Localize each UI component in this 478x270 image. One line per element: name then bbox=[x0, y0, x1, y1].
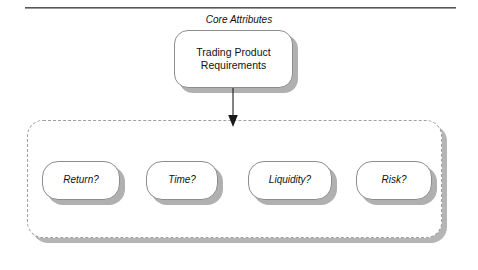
attribute-node-liquidity[interactable]: Liquidity? bbox=[248, 161, 332, 200]
attribute-node-label: Liquidity? bbox=[269, 174, 311, 187]
header-divider-rule bbox=[25, 7, 456, 9]
attribute-node-label: Return? bbox=[63, 174, 99, 187]
root-node-label: Trading Product Requirements bbox=[196, 46, 270, 72]
attribute-node-time[interactable]: Time? bbox=[146, 161, 218, 200]
attribute-node-return[interactable]: Return? bbox=[42, 161, 120, 200]
diagram-canvas: Trading Product Requirements Core Attrib… bbox=[0, 0, 478, 270]
core-attributes-group-title: Core Attributes bbox=[0, 14, 478, 25]
attribute-node-risk[interactable]: Risk? bbox=[356, 161, 432, 200]
attribute-node-label: Risk? bbox=[381, 174, 406, 187]
attribute-node-label: Time? bbox=[168, 174, 196, 187]
connector-arrow-root-to-group bbox=[226, 88, 240, 128]
root-node-trading-product-requirements[interactable]: Trading Product Requirements bbox=[174, 30, 293, 88]
